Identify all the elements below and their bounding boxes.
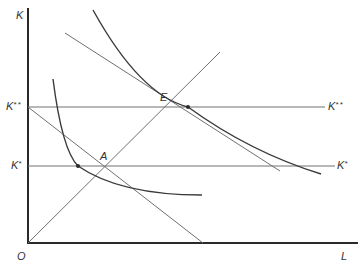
point-e-label: E [160, 92, 167, 103]
x-axis-label: L [341, 251, 347, 262]
upper-isocost-line [65, 33, 280, 171]
lower-isocost-line [28, 107, 203, 243]
upper-isoquant-curve [93, 10, 321, 174]
point-a-marker [76, 164, 80, 168]
k-double-star-right-label: K** [328, 101, 344, 112]
point-e-marker [186, 105, 190, 109]
point-a-label: A [100, 151, 107, 162]
lower-isoquant-curve [53, 79, 202, 195]
k-star-left-label: K* [11, 160, 22, 171]
y-axis-label: K [16, 10, 23, 21]
isoquant-diagram [0, 0, 362, 264]
origin-label: O [17, 251, 26, 262]
k-double-star-left-label: K** [6, 101, 22, 112]
expansion-ray [28, 52, 220, 243]
k-star-right-label: K* [337, 160, 348, 171]
